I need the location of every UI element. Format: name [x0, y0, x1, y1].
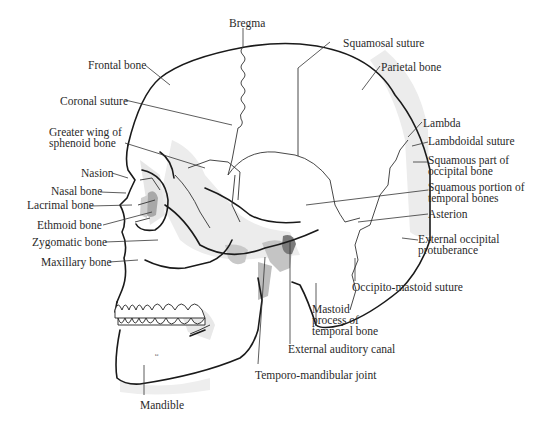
- label-ethmoid-bone: Ethmoid bone: [37, 220, 102, 231]
- svg-text:ω: ω: [155, 352, 159, 357]
- label-frontal-bone: Frontal bone: [88, 60, 146, 71]
- label-lacrimal-bone: Lacrimal bone: [27, 200, 94, 211]
- label-lambdoidal-suture: Lambdoidal suture: [428, 136, 515, 147]
- label-greater-wing-sphenoid: Greater wing of sphenoid bone: [49, 127, 122, 149]
- label-squamous-temporal: Squamous portion of temporal bones: [428, 182, 524, 204]
- label-mastoid-process: Mastoid process of temporal bone: [312, 304, 378, 337]
- label-parietal-bone: Parietal bone: [381, 62, 441, 73]
- label-coronal-suture: Coronal suture: [60, 96, 128, 107]
- coronal-suture-line: [228, 47, 245, 175]
- label-maxillary-bone: Maxillary bone: [41, 257, 112, 268]
- label-nasal-bone: Nasal bone: [51, 186, 102, 197]
- label-external-occipital-protuberance: External occipital protuberance: [418, 234, 499, 256]
- label-occipito-mastoid-suture: Occipito-mastoid suture: [352, 282, 463, 293]
- label-squamous-occipital: Squamous part of occipital bone: [428, 155, 509, 177]
- label-nasion: Nasion: [81, 168, 114, 179]
- label-mandible: Mandible: [140, 400, 184, 411]
- label-temporo-mandibular-joint: Temporo-mandibular joint: [255, 370, 377, 381]
- label-zygomatic-bone: Zygomatic bone: [32, 237, 107, 248]
- label-lambda: Lambda: [423, 118, 461, 129]
- label-external-auditory-canal: External auditory canal: [288, 344, 395, 355]
- label-squamosal-suture: Squamosal suture: [343, 38, 424, 49]
- label-bregma: Bregma: [229, 18, 265, 29]
- label-asterion: Asterion: [428, 209, 468, 220]
